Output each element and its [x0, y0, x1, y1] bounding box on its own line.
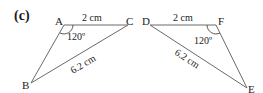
triangle-abc: A B C 2 cm 120º 6.2 cm: [22, 12, 133, 91]
vertex-f-label: F: [218, 15, 224, 27]
side-bc-measure: 6.2 cm: [68, 52, 97, 76]
side-ab: [31, 25, 64, 83]
side-df-measure: 2 cm: [173, 12, 193, 23]
congruent-triangles-diagram: (c) A B C 2 cm 120º 6.2 cm D F E 2 cm 12…: [0, 0, 263, 93]
part-label: (c): [14, 8, 30, 24]
side-fe: [216, 25, 247, 88]
vertex-d-label: D: [142, 15, 150, 27]
vertex-a-label: A: [55, 15, 63, 27]
triangle-def: D F E 2 cm 120º 6.2 cm: [142, 12, 255, 93]
vertex-e-label: E: [248, 83, 255, 93]
angle-a-measure: 120º: [67, 31, 85, 42]
side-de-measure: 6.2 cm: [173, 46, 202, 70]
side-ac-measure: 2 cm: [82, 12, 102, 23]
vertex-b-label: B: [22, 79, 29, 91]
vertex-c-label: C: [126, 15, 133, 27]
angle-f-measure: 120º: [194, 35, 212, 46]
